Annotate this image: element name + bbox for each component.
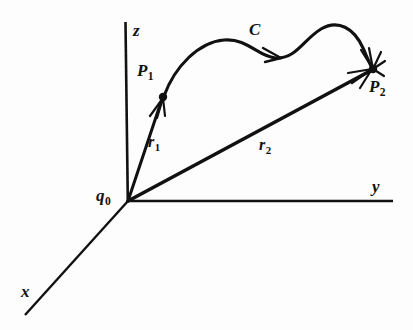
- curve-label-c: C: [249, 21, 260, 38]
- axes-group: [25, 22, 393, 315]
- point-label-p1: P1: [137, 62, 153, 79]
- point-marker-p1: [159, 93, 167, 101]
- axis-label-x: x: [21, 283, 30, 300]
- diagram-canvas: [0, 0, 413, 330]
- point-label-p2: P2: [369, 78, 385, 95]
- axis-z-line: [126, 22, 128, 201]
- vector-label-r1: r1: [148, 134, 160, 150]
- axis-x-line: [25, 201, 128, 315]
- vector-diagram-figure: z y x P1 P2 q0 r1 r2 C: [0, 0, 413, 330]
- vector-label-r2: r2: [259, 137, 271, 153]
- path-c-group: [164, 25, 385, 96]
- vector-r2-shaft: [128, 71, 370, 201]
- axis-label-y: y: [372, 178, 380, 195]
- point-marker-p2: [369, 65, 377, 73]
- axis-label-z: z: [133, 22, 140, 39]
- point-label-q0: q0: [96, 187, 110, 204]
- vector-r2-group: [128, 69, 372, 201]
